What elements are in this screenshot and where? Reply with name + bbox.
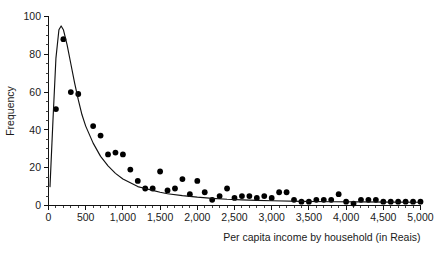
data-point	[336, 191, 342, 197]
x-axis-tick-label: 3,500	[296, 211, 322, 223]
data-point	[239, 193, 245, 199]
x-axis-tick-label: 1,000	[110, 211, 136, 223]
x-axis-tick-label: 2,500	[221, 211, 247, 223]
data-point	[68, 89, 74, 95]
data-point	[165, 187, 171, 193]
y-axis-tick-label: 80	[29, 48, 41, 60]
y-axis-tick-label: 100	[23, 10, 41, 22]
data-point	[261, 193, 267, 199]
data-point	[269, 195, 275, 201]
x-axis-tick-label: 4,500	[370, 211, 396, 223]
data-point	[113, 150, 119, 156]
data-point	[98, 133, 104, 139]
data-point	[105, 152, 111, 158]
x-axis-tick-label: 4,000	[333, 211, 359, 223]
x-axis-tick-label: 5,000	[407, 211, 433, 223]
data-point	[217, 193, 223, 199]
data-point	[291, 197, 297, 203]
scatter-series	[53, 36, 423, 206]
data-point	[172, 186, 178, 192]
data-point	[120, 152, 126, 158]
data-point	[135, 178, 141, 184]
data-point	[180, 176, 186, 182]
x-axis-tick-label: 2,000	[184, 211, 210, 223]
y-axis-tick-label: 20	[29, 161, 41, 173]
data-point	[284, 189, 290, 195]
x-axis-tick-label: 3,000	[259, 211, 285, 223]
income-distribution-chart: 02040608010005001,0001,5002,0002,5003,00…	[0, 0, 436, 253]
data-point	[127, 167, 133, 173]
data-point	[194, 178, 200, 184]
x-axis-title: Per capita income by household (in Reais…	[223, 231, 420, 243]
data-point	[276, 189, 282, 195]
y-axis-tick-label: 40	[29, 124, 41, 136]
x-axis-tick-label: 1,500	[147, 211, 173, 223]
x-axis-tick-label: 0	[46, 211, 52, 223]
data-point	[90, 123, 96, 129]
x-axis-tick-label: 500	[77, 211, 95, 223]
y-axis-tick-label: 60	[29, 86, 41, 98]
data-point	[202, 189, 208, 195]
fitted-curve	[50, 26, 421, 202]
data-point	[246, 193, 252, 199]
y-axis-title: Frequency	[4, 85, 16, 135]
y-axis-tick-label: 0	[35, 199, 41, 211]
data-point	[157, 169, 163, 175]
data-point	[224, 186, 230, 192]
